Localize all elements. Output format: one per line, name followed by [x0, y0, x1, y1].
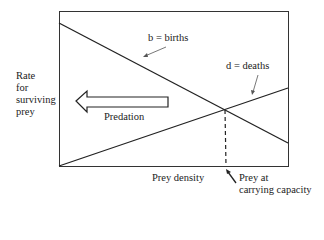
y-axis-label: Rate for surviving prey [16, 70, 56, 118]
y-label-line: for [16, 82, 56, 94]
births-label: b = births [148, 32, 188, 44]
y-label-line: surviving [16, 94, 56, 106]
carrying-capacity-dashed-line [225, 110, 226, 166]
y-label-line: prey [16, 106, 56, 118]
cc-label-line: carrying capacity [239, 184, 312, 196]
cc-label-line: Prey at [239, 172, 312, 184]
y-label-line: Rate [16, 70, 56, 82]
deaths-pointer-icon [253, 75, 258, 92]
x-axis-label: Prey density [152, 172, 204, 184]
carrying-capacity-pointer-icon [228, 172, 236, 183]
births-pointer-icon [145, 47, 166, 56]
predation-arrow-icon [76, 91, 168, 112]
carrying-capacity-label: Prey at carrying capacity [239, 172, 312, 196]
deaths-label: d = deaths [226, 60, 269, 72]
predation-label: Predation [104, 111, 144, 123]
